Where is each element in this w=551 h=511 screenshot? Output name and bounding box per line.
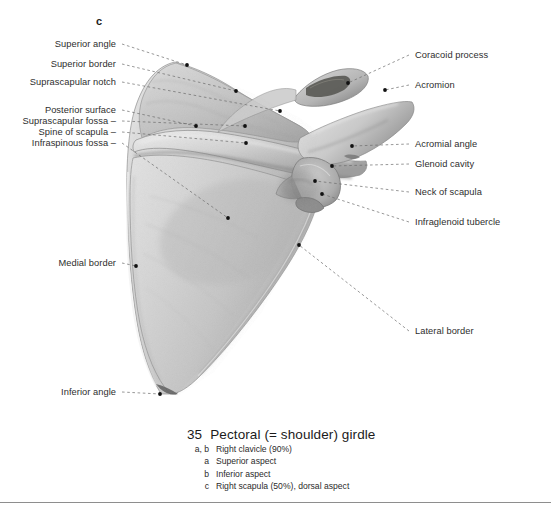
- dot-neck-of-scapula: [313, 179, 317, 183]
- label-suprascapular-fossa: Suprascapular fossa –: [22, 116, 116, 126]
- caption-row-key: a: [187, 456, 209, 466]
- caption-row-key: c: [187, 481, 209, 491]
- label-infraglenoid-tubercle: Infraglenoid tubercle: [415, 217, 500, 227]
- dot-acromion: [383, 88, 387, 92]
- dot-lateral-border: [297, 243, 301, 247]
- caption-rows: a, bRight clavicle (90%)aSuperior aspect…: [187, 444, 517, 491]
- caption-row: cRight scapula (50%), dorsal aspect: [187, 481, 517, 491]
- label-suprascapular-notch: Suprascapular notch: [30, 77, 116, 87]
- label-coracoid-process: Coracoid process: [415, 50, 488, 60]
- leader-superior-angle: [122, 44, 187, 65]
- leader-inferior-angle: [122, 392, 160, 394]
- caption-row-text: Inferior aspect: [216, 469, 270, 479]
- label-glenoid-cavity: Glenoid cavity: [415, 159, 474, 169]
- label-lateral-border: Lateral border: [415, 326, 474, 336]
- caption-title-text: Pectoral (= shoulder) girdle: [210, 427, 375, 442]
- caption-row-key: a, b: [187, 444, 209, 454]
- caption-row-text: Right clavicle (90%): [216, 444, 292, 454]
- dot-glenoid-cavity: [330, 164, 334, 168]
- label-acromial-angle: Acromial angle: [415, 139, 477, 149]
- label-superior-border: Superior border: [51, 59, 116, 69]
- dot-acromial-angle: [350, 144, 354, 148]
- dot-superior-border: [234, 89, 238, 93]
- dot-suprascapular-notch: [278, 109, 282, 113]
- acromion: [298, 101, 414, 164]
- dot-coracoid-process: [346, 81, 350, 85]
- label-inferior-angle: Inferior angle: [61, 387, 116, 397]
- label-infraspinous-fossa: Infraspinous fossa –: [32, 138, 116, 148]
- dot-suprascapular-fossa: [243, 124, 247, 128]
- label-medial-border: Medial border: [59, 258, 117, 268]
- caption-title: 35Pectoral (= shoulder) girdle: [187, 427, 517, 442]
- label-posterior-surface: Posterior surface: [45, 105, 116, 115]
- label-acromion: Acromion: [415, 80, 455, 90]
- dot-inferior-angle: [158, 392, 162, 396]
- caption-row: a, bRight clavicle (90%): [187, 444, 517, 454]
- footer-rule: [0, 502, 551, 503]
- figure-caption: 35Pectoral (= shoulder) girdle a, bRight…: [187, 427, 517, 491]
- dot-infraglenoid-tubercle: [320, 192, 324, 196]
- dot-medial-border: [134, 264, 138, 268]
- caption-row-text: Superior aspect: [216, 456, 276, 466]
- anatomy-plate: c: [0, 0, 551, 511]
- label-spine-of-scapula: Spine of scapula –: [39, 127, 116, 137]
- dot-superior-angle: [185, 63, 189, 67]
- label-neck-of-scapula: Neck of scapula: [415, 187, 482, 197]
- label-superior-angle: Superior angle: [55, 39, 116, 49]
- caption-number: 35: [187, 427, 202, 442]
- leader-lateral-border: [299, 245, 409, 331]
- caption-row-text: Right scapula (50%), dorsal aspect: [216, 481, 349, 491]
- caption-row-key: b: [187, 469, 209, 479]
- dot-spine-of-scapula: [244, 141, 248, 145]
- leader-acromion: [385, 85, 409, 90]
- dot-infraspinous-fossa: [226, 216, 230, 220]
- caption-row: bInferior aspect: [187, 469, 517, 479]
- dot-posterior-surface: [194, 124, 198, 128]
- caption-row: aSuperior aspect: [187, 456, 517, 466]
